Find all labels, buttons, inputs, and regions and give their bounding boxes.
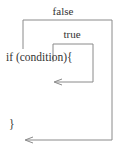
if-condition-code: if (condition){ [6,51,73,64]
true-label: true [63,28,80,40]
if-statement-flow-diagram: false true if (condition){ } [0,0,117,148]
false-label: false [53,5,74,17]
closing-brace-code: } [9,118,15,130]
